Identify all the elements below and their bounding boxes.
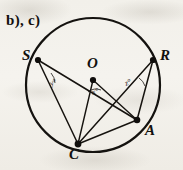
vertex-label-C: C [69,147,79,162]
vertex-label-A: A [145,123,155,138]
vertex-label-R: R [160,48,170,63]
angle-arc-z [139,78,145,86]
vertex-label-S: S [22,48,30,63]
main-circle [26,18,160,152]
point-dot-O [90,77,96,83]
vertex-label-O: O [87,56,98,71]
point-dot-S [35,57,41,63]
circle-geometry-figure: b), c) S R A C O y° x° z° [0,0,183,170]
point-dot-A [134,117,141,124]
point-dot-R [150,57,156,63]
part-label: b), c) [6,12,40,29]
chord-CA [78,120,137,144]
